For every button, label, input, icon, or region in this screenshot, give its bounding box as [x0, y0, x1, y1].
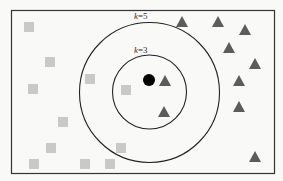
k3-label: k=3 — [134, 45, 148, 55]
query-point — [143, 74, 155, 86]
class-a-square-point — [80, 159, 90, 169]
class-a-square-point — [24, 22, 34, 32]
class-a-square-point — [105, 159, 115, 169]
class-a-square-point — [45, 57, 55, 67]
class-a-square-point — [58, 117, 68, 127]
k5-label: k=5 — [134, 11, 148, 21]
class-a-square-point — [116, 143, 126, 153]
knn-diagram: k=5 k=3 — [0, 0, 283, 181]
class-a-square-point — [85, 74, 95, 84]
class-a-square-point — [29, 159, 39, 169]
class-a-square-point — [121, 85, 131, 95]
class-a-square-point — [46, 143, 56, 153]
class-a-square-point — [28, 84, 38, 94]
